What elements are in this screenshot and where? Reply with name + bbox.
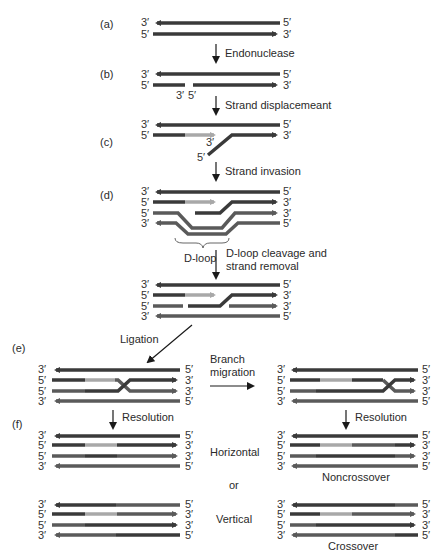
svg-text:5′: 5′: [141, 129, 149, 141]
svg-text:3′: 3′: [38, 529, 46, 541]
svg-text:3′: 3′: [141, 16, 149, 28]
horizontal-label: Horizontal: [210, 446, 260, 458]
step-branch-migration-line2: migration: [210, 366, 255, 378]
panel-label-c: (c): [100, 136, 113, 148]
svg-text:5′: 5′: [185, 529, 193, 541]
step-dloop-cleavage-line1: D-loop cleavage and: [226, 247, 327, 259]
svg-text:3′: 3′: [277, 529, 285, 541]
dna-duplex-a: 3′ 5′ 5′ 3′: [141, 16, 291, 40]
panel-label-e: (e): [12, 342, 25, 354]
dna-post-cleavage: 3′ 5′ 5′ 3′ 5′ 3′ 3′ 5′: [141, 278, 291, 322]
nick-5prime: 5′: [188, 89, 196, 101]
step-endonuclease: Endonuclease: [225, 47, 295, 59]
product-right-crossover: 3′ 5′ 5′ 3′ 5′ 3′ 3′ 5′: [277, 498, 430, 541]
holliday-junction-left: 3′ 5′ 5′ 3′ 5′ 3′ 3′ 5′: [38, 363, 193, 407]
svg-text:5′: 5′: [422, 395, 430, 407]
panel-label-b: (b): [100, 68, 113, 80]
step-branch-migration-line1: Branch: [210, 353, 245, 365]
step-ligation: Ligation: [120, 333, 159, 345]
svg-text:3′: 3′: [38, 460, 46, 472]
svg-text:3′: 3′: [141, 217, 149, 229]
dloop-label: D-loop: [184, 252, 216, 264]
step-strand-displacement: Strand displacemeant: [225, 99, 331, 111]
product-right-noncrossover: 3′ 5′ 5′ 3′ 5′ 3′ 3′ 5′: [277, 429, 430, 472]
step-resolution-left: Resolution: [122, 411, 174, 423]
svg-text:5′: 5′: [197, 151, 205, 163]
nick-3prime: 3′: [176, 89, 184, 101]
product-left-horizontal: 3′ 5′ 5′ 3′ 5′ 3′ 3′ 5′: [38, 429, 193, 472]
svg-text:5′: 5′: [283, 217, 291, 229]
step-dloop-cleavage-line2: strand removal: [226, 260, 299, 272]
vertical-label: Vertical: [216, 513, 252, 525]
crossover-label: Crossover: [328, 540, 378, 552]
svg-text:3′: 3′: [283, 79, 291, 91]
step-strand-invasion: Strand invasion: [225, 165, 301, 177]
panel-label-a: (a): [100, 18, 113, 30]
svg-text:3′: 3′: [277, 460, 285, 472]
noncrossover-label: Noncrossover: [322, 471, 390, 483]
panel-label-f: (f): [12, 418, 22, 430]
svg-text:5′: 5′: [185, 460, 193, 472]
svg-text:5′: 5′: [422, 460, 430, 472]
product-left-vertical: 3′ 5′ 5′ 3′ 5′ 3′ 3′ 5′: [38, 498, 193, 541]
step-resolution-right: Resolution: [355, 411, 407, 423]
svg-text:5′: 5′: [283, 310, 291, 322]
panel-label-d: (d): [100, 189, 113, 201]
svg-text:3′: 3′: [277, 395, 285, 407]
svg-text:5′: 5′: [141, 79, 149, 91]
svg-text:5′: 5′: [141, 28, 149, 40]
svg-text:3′: 3′: [283, 129, 291, 141]
or-label: or: [229, 479, 239, 491]
svg-text:3′: 3′: [141, 310, 149, 322]
dna-dloop-d: 3′ 5′ 5′ 3′ 5′ 3′ 3′ 5′: [141, 185, 291, 248]
svg-text:5′: 5′: [185, 395, 193, 407]
svg-text:3′: 3′: [38, 395, 46, 407]
homologous-recombination-diagram: (a) 3′ 5′ 5′ 3′ Endonuclease (b) 3′ 5′ 5…: [0, 0, 444, 558]
dna-duplex-c: 3′ 5′ 5′ 3′ 3′ 5′: [141, 118, 291, 163]
dloop-brace: [175, 238, 229, 248]
svg-text:5′: 5′: [283, 16, 291, 28]
holliday-junction-right: 3′ 5′ 5′ 3′ 5′ 3′ 3′ 5′: [277, 363, 430, 407]
svg-text:5′: 5′: [422, 529, 430, 541]
svg-text:3′: 3′: [206, 136, 214, 148]
svg-text:3′: 3′: [283, 28, 291, 40]
